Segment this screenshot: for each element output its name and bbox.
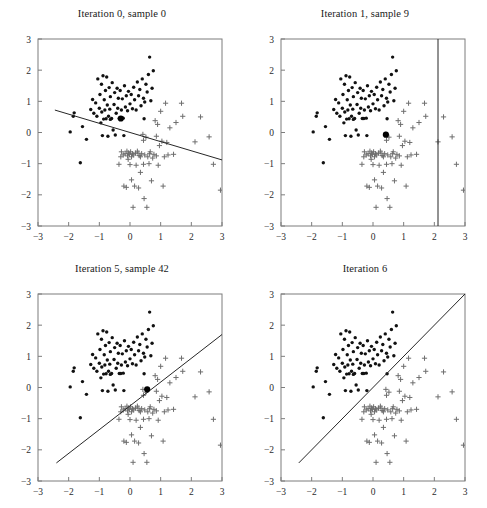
svg-text:−1: −1 (94, 487, 104, 497)
svg-text:−2: −2 (21, 445, 31, 455)
plot-area: −3−2−10123−3−2−10123 (0, 22, 244, 258)
svg-text:−2: −2 (64, 232, 74, 242)
svg-text:−1: −1 (21, 159, 31, 169)
svg-text:2: 2 (189, 232, 194, 242)
svg-text:3: 3 (269, 290, 274, 300)
svg-text:−1: −1 (264, 414, 274, 424)
svg-text:−2: −2 (21, 190, 31, 200)
svg-text:0: 0 (128, 487, 133, 497)
svg-text:1: 1 (401, 232, 406, 242)
svg-text:−3: −3 (33, 232, 43, 242)
panel-iteration-5: Iteration 5, sample 42 −3−2−10123−3−2−10… (0, 263, 244, 508)
svg-text:−3: −3 (33, 487, 43, 497)
svg-text:−3: −3 (21, 477, 31, 487)
svg-text:−3: −3 (21, 222, 31, 232)
svg-text:1: 1 (269, 97, 274, 107)
svg-text:−3: −3 (276, 232, 286, 242)
svg-text:2: 2 (432, 232, 437, 242)
svg-text:1: 1 (158, 232, 163, 242)
svg-text:−1: −1 (94, 232, 104, 242)
svg-text:0: 0 (128, 232, 133, 242)
svg-text:0: 0 (269, 383, 274, 393)
svg-text:−1: −1 (337, 232, 347, 242)
svg-text:0: 0 (371, 487, 376, 497)
svg-text:3: 3 (463, 232, 468, 242)
svg-text:0: 0 (26, 128, 31, 138)
scatter-plot-3: −3−2−10123−3−2−10123 (243, 277, 487, 508)
svg-text:3: 3 (269, 35, 274, 45)
scatter-plot-0: −3−2−10123−3−2−10123 (0, 22, 244, 258)
plot-area: −3−2−10123−3−2−10123 (0, 277, 244, 508)
svg-text:3: 3 (220, 487, 225, 497)
panel-title: Iteration 0, sample 0 (0, 8, 244, 19)
svg-text:1: 1 (269, 352, 274, 362)
panel-iteration-6: Iteration 6 −3−2−10123−3−2−10123 (243, 263, 487, 508)
svg-text:−2: −2 (64, 487, 74, 497)
svg-text:2: 2 (189, 487, 194, 497)
panel-title: Iteration 1, sample 9 (243, 8, 487, 19)
svg-text:3: 3 (463, 487, 468, 497)
svg-text:−2: −2 (264, 190, 274, 200)
svg-text:−1: −1 (337, 487, 347, 497)
svg-text:1: 1 (158, 487, 163, 497)
svg-text:1: 1 (26, 97, 31, 107)
svg-text:−2: −2 (307, 487, 317, 497)
svg-text:2: 2 (26, 66, 31, 76)
svg-text:2: 2 (269, 66, 274, 76)
plot-area: −3−2−10123−3−2−10123 (243, 277, 487, 508)
panel-iteration-0: Iteration 0, sample 0 −3−2−10123−3−2−101… (0, 8, 244, 258)
panel-title: Iteration 6 (243, 263, 487, 274)
svg-text:3: 3 (26, 290, 31, 300)
svg-text:−3: −3 (264, 477, 274, 487)
svg-text:2: 2 (269, 321, 274, 331)
svg-text:−2: −2 (307, 232, 317, 242)
scatter-plot-2: −3−2−10123−3−2−10123 (0, 277, 244, 508)
svg-text:1: 1 (401, 487, 406, 497)
svg-text:−2: −2 (264, 445, 274, 455)
svg-text:0: 0 (26, 383, 31, 393)
svg-text:3: 3 (220, 232, 225, 242)
svg-text:−1: −1 (264, 159, 274, 169)
svg-text:0: 0 (371, 232, 376, 242)
svg-text:2: 2 (26, 321, 31, 331)
svg-text:3: 3 (26, 35, 31, 45)
panel-iteration-1: Iteration 1, sample 9 −3−2−10123−3−2−101… (243, 8, 487, 258)
svg-text:−1: −1 (21, 414, 31, 424)
figure-canvas: Iteration 0, sample 0 −3−2−10123−3−2−101… (0, 0, 487, 508)
plot-area: −3−2−10123−3−2−10123 (243, 22, 487, 258)
panel-title: Iteration 5, sample 42 (0, 263, 244, 274)
svg-text:2: 2 (432, 487, 437, 497)
svg-text:0: 0 (269, 128, 274, 138)
svg-text:1: 1 (26, 352, 31, 362)
svg-text:−3: −3 (276, 487, 286, 497)
svg-text:−3: −3 (264, 222, 274, 232)
scatter-plot-1: −3−2−10123−3−2−10123 (243, 22, 487, 258)
